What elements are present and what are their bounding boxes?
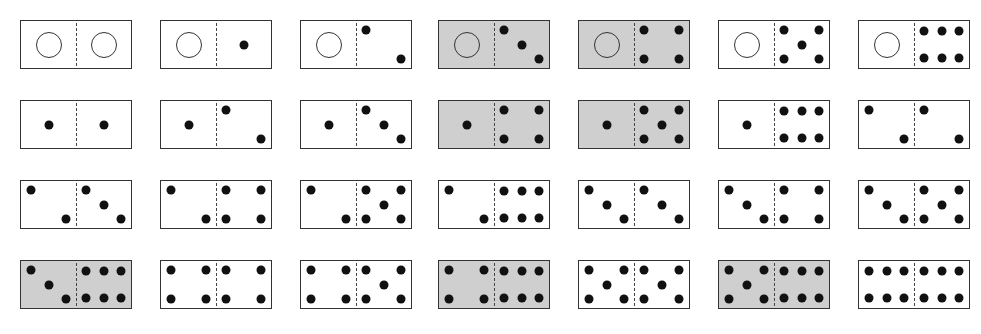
domino-half-right: [216, 181, 271, 228]
domino-half-left: [21, 181, 76, 228]
pip-icon: [584, 294, 593, 303]
domino-4-6: [438, 260, 550, 309]
domino-half-right: [494, 181, 549, 228]
pip-icon: [379, 280, 388, 289]
pip-icon: [361, 214, 370, 223]
pip-icon: [535, 267, 544, 276]
domino-5-5: [578, 260, 690, 309]
pip-icon: [81, 293, 90, 302]
pip-icon: [257, 294, 266, 303]
pip-icon: [62, 294, 71, 303]
domino-half-left: [439, 101, 494, 148]
pip-icon: [379, 200, 388, 209]
blank-circle-icon: [91, 32, 117, 58]
pip-icon: [499, 213, 508, 222]
domino-divider: [634, 103, 635, 146]
domino-half-right: [634, 21, 689, 68]
domino-half-right: [774, 101, 829, 148]
pip-icon: [361, 106, 370, 115]
pip-icon: [675, 294, 684, 303]
domino-0-4: [578, 20, 690, 69]
domino-half-left: [719, 181, 774, 228]
pip-icon: [657, 120, 666, 129]
domino-1-4: [438, 100, 550, 149]
pip-icon: [397, 186, 406, 195]
pip-icon: [639, 186, 648, 195]
domino-divider: [914, 263, 915, 306]
domino-divider: [356, 23, 357, 66]
pip-icon: [919, 186, 928, 195]
pip-icon: [779, 107, 788, 116]
domino-half-left: [579, 21, 634, 68]
pip-icon: [517, 40, 526, 49]
pip-icon: [675, 106, 684, 115]
domino-half-left: [301, 261, 356, 308]
domino-divider: [914, 183, 915, 226]
domino-half-right: [216, 21, 271, 68]
domino-half-right: [634, 181, 689, 228]
pip-icon: [955, 53, 964, 62]
pip-icon: [26, 266, 35, 275]
pip-icon: [919, 106, 928, 115]
domino-4-5: [300, 260, 412, 309]
domino-divider: [216, 23, 217, 66]
pip-icon: [342, 214, 351, 223]
blank-circle-icon: [874, 32, 900, 58]
pip-icon: [342, 266, 351, 275]
domino-5-6: [718, 260, 830, 309]
pip-icon: [602, 200, 611, 209]
domino-half-right: [76, 21, 131, 68]
domino-half-left: [719, 21, 774, 68]
domino-half-right: [356, 101, 411, 148]
pip-icon: [26, 186, 35, 195]
domino-half-left: [579, 181, 634, 228]
domino-divider: [634, 183, 635, 226]
pip-icon: [221, 266, 230, 275]
pip-icon: [480, 266, 489, 275]
pip-icon: [257, 214, 266, 223]
domino-divider: [76, 103, 77, 146]
domino-1-3: [300, 100, 412, 149]
pip-icon: [742, 280, 751, 289]
domino-divider: [216, 183, 217, 226]
pip-icon: [342, 294, 351, 303]
pip-icon: [480, 214, 489, 223]
domino-2-5: [300, 180, 412, 229]
pip-icon: [779, 186, 788, 195]
domino-divider: [494, 183, 495, 226]
pip-icon: [620, 294, 629, 303]
domino-0-2: [300, 20, 412, 69]
pip-icon: [517, 267, 526, 276]
domino-half-left: [439, 261, 494, 308]
domino-divider: [914, 103, 915, 146]
pip-icon: [900, 214, 909, 223]
pip-icon: [462, 120, 471, 129]
domino-half-right: [356, 21, 411, 68]
pip-icon: [882, 200, 891, 209]
pip-icon: [864, 106, 873, 115]
domino-half-left: [859, 21, 914, 68]
domino-divider: [216, 103, 217, 146]
domino-divider: [494, 103, 495, 146]
pip-icon: [44, 120, 53, 129]
domino-half-left: [579, 261, 634, 308]
pip-icon: [499, 293, 508, 302]
domino-divider: [76, 183, 77, 226]
pip-icon: [955, 293, 964, 302]
pip-icon: [535, 213, 544, 222]
pip-icon: [779, 133, 788, 142]
domino-2-3: [20, 180, 132, 229]
domino-half-right: [914, 21, 969, 68]
pip-icon: [202, 214, 211, 223]
pip-icon: [397, 54, 406, 63]
domino-half-left: [859, 101, 914, 148]
pip-icon: [955, 267, 964, 276]
domino-half-right: [634, 101, 689, 148]
pip-icon: [99, 267, 108, 276]
domino-half-left: [161, 101, 216, 148]
pip-icon: [937, 200, 946, 209]
pip-icon: [724, 294, 733, 303]
pip-icon: [535, 134, 544, 143]
pip-icon: [499, 267, 508, 276]
domino-half-right: [634, 261, 689, 308]
